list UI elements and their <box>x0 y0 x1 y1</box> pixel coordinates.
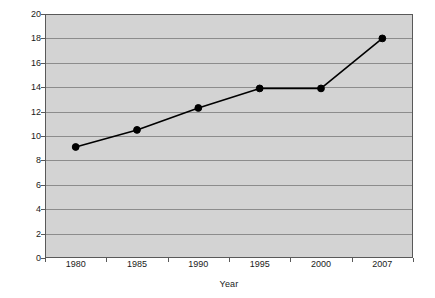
x-axis-tick-label: 1990 <box>188 258 208 270</box>
data-point-marker <box>318 85 325 92</box>
x-axis-tick-labels: 198019851990199520002007 <box>45 258 413 272</box>
x-axis-tick-label: 1985 <box>127 258 147 270</box>
data-point-marker <box>195 105 202 112</box>
data-point-marker <box>379 35 386 42</box>
data-point-marker <box>134 126 141 133</box>
x-axis-tick-label: 1980 <box>66 258 86 270</box>
data-point-marker <box>256 85 263 92</box>
x-axis-tick-label: 1995 <box>250 258 270 270</box>
plot-area <box>0 0 435 298</box>
line-chart: Percent 02468101214161820 19801985199019… <box>0 0 435 298</box>
x-axis-tick-label: 2007 <box>372 258 392 270</box>
data-point-marker <box>72 144 79 151</box>
x-axis-title: Year <box>45 278 413 290</box>
x-axis-tick-label: 2000 <box>311 258 331 270</box>
